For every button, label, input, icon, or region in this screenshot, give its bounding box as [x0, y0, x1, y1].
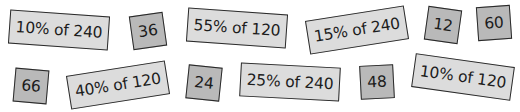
card-answer-60[interactable]: 60	[476, 5, 512, 41]
card-answer-48[interactable]: 48	[359, 64, 395, 100]
card-answer-12[interactable]: 12	[424, 6, 462, 44]
card-answer-24[interactable]: 24	[185, 64, 222, 101]
card-question-10pct-of-120[interactable]: 10% of 120	[411, 53, 515, 101]
card-question-25pct-of-240[interactable]: 25% of 240	[239, 62, 341, 101]
card-answer-36[interactable]: 36	[129, 12, 167, 50]
card-question-15pct-of-240[interactable]: 15% of 240	[305, 5, 409, 54]
card-question-40pct-of-120[interactable]: 40% of 120	[66, 60, 170, 109]
card-question-10pct-of-240[interactable]: 10% of 240	[8, 10, 110, 51]
card-question-55pct-of-120[interactable]: 55% of 120	[186, 8, 288, 49]
card-answer-66[interactable]: 66	[13, 68, 50, 105]
